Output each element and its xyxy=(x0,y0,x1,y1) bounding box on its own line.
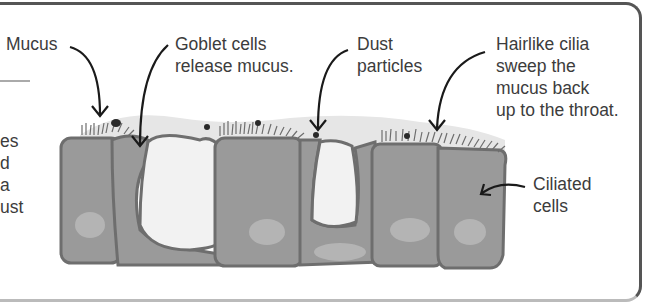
label-hairlike-cilia: Hairlike cilia sweep the mucus back up t… xyxy=(496,33,619,121)
arrow-mucus xyxy=(70,47,108,116)
arrow-cilia xyxy=(429,52,485,130)
goblet-cell-1-interior xyxy=(140,135,222,250)
ciliated-cell-2 xyxy=(215,138,303,266)
nucleus xyxy=(314,243,366,261)
nucleus xyxy=(249,219,285,245)
goblet-cell-2-interior xyxy=(312,141,357,227)
label-dust-particles: Dust particles xyxy=(357,33,422,77)
nucleus xyxy=(454,219,486,245)
nucleus xyxy=(390,218,430,242)
label-mucus: Mucus xyxy=(6,33,58,55)
label-ciliated-cells: Ciliated cells xyxy=(533,173,591,217)
ciliated-cell-4 xyxy=(438,148,506,268)
ciliated-cell-3 xyxy=(372,144,442,266)
nucleus xyxy=(75,212,105,238)
label-goblet-cells: Goblet cells release mucus. xyxy=(175,33,294,77)
